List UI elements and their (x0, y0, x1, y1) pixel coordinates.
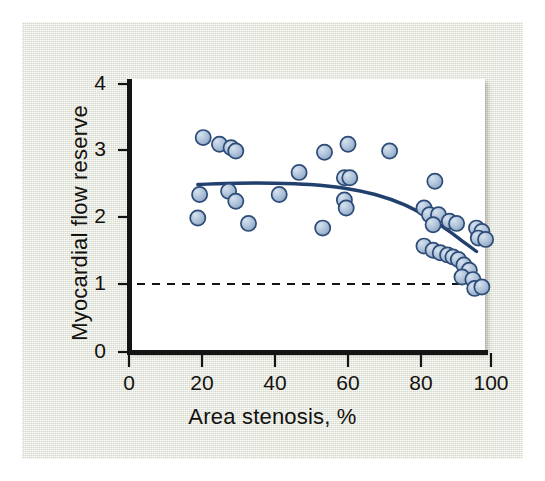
data-point-marker (241, 216, 256, 231)
data-point-marker (445, 249, 460, 264)
figure-page: 4 3 2 1 0 0 20 40 60 80 100 Area stenosi… (0, 0, 545, 481)
data-point-marker (382, 143, 397, 158)
data-point-marker (416, 239, 431, 254)
x-tick-label-40: 40 (255, 372, 295, 393)
data-point-marker (315, 221, 330, 236)
data-point-marker (192, 187, 207, 202)
data-point-marker (224, 140, 239, 155)
data-point-marker (426, 243, 441, 258)
x-tick-label-0: 0 (109, 372, 149, 393)
data-point-marker (228, 194, 243, 209)
data-point-marker (433, 245, 448, 260)
data-point-marker (340, 137, 355, 152)
data-point-marker (228, 143, 243, 158)
data-point-marker (474, 279, 489, 294)
data-point-marker (462, 263, 477, 278)
data-point-marker (292, 165, 307, 180)
data-point-marker (449, 216, 464, 231)
x-axis-title: Area stenosis, % (0, 404, 545, 430)
data-point-marker (456, 257, 471, 272)
x-tick-label-60: 60 (328, 372, 368, 393)
data-point-marker (337, 192, 352, 207)
data-point-marker (467, 281, 482, 296)
data-point-marker (196, 130, 211, 145)
x-tick-label-80: 80 (401, 372, 441, 393)
data-point-marker (474, 224, 489, 239)
data-point-marker (454, 269, 469, 284)
data-point-marker (478, 232, 493, 247)
data-point-marker (190, 210, 205, 225)
data-point-marker (465, 272, 480, 287)
fitted-curve (198, 183, 477, 252)
data-point-marker (339, 200, 354, 215)
fit-curve-path (198, 183, 477, 252)
data-point-marker (342, 170, 357, 185)
data-point-marker (469, 221, 484, 236)
y-axis-title: Myocardial flow reserve (67, 83, 93, 363)
data-point-marker (471, 231, 486, 246)
data-point-marker (451, 252, 466, 267)
x-tick-label-20: 20 (182, 372, 222, 393)
data-point-marker (317, 145, 332, 160)
data-point-markers (190, 130, 493, 296)
data-point-marker (337, 170, 352, 185)
data-point-marker (272, 187, 287, 202)
data-point-marker (221, 184, 236, 199)
data-point-marker (427, 174, 442, 189)
data-point-marker (212, 137, 227, 152)
data-point-marker (440, 247, 455, 262)
x-tick-label-100: 100 (467, 372, 515, 393)
